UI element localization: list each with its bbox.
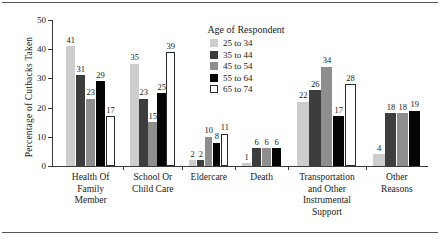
bar (221, 134, 229, 166)
x-axis-line (52, 166, 428, 167)
bar-value-label: 26 (311, 79, 320, 89)
bar (213, 143, 221, 166)
bar-value-label: 34 (323, 55, 332, 65)
x-axis-label: Transportationand OtherInstrumentalSuppo… (299, 172, 355, 218)
figure-bottom-rule (2, 232, 438, 233)
bar (321, 67, 332, 166)
bar-value-label: 6 (255, 137, 259, 147)
bar-value-label: 29 (96, 70, 105, 80)
y-tick-label: 50 (37, 15, 46, 25)
legend-item[interactable]: 55 to 64 (210, 73, 306, 83)
bar (373, 154, 384, 166)
y-tick-label: 40 (37, 44, 46, 54)
x-axis-label: School OrChild Care (132, 172, 173, 195)
x-axis-label: Death (250, 172, 273, 184)
chart-legend: Age of Respondent 25 to 3435 to 4445 to … (186, 24, 306, 96)
x-axis-label-line: Support (299, 207, 355, 219)
legend-item-label: 35 to 44 (223, 50, 253, 60)
bar (130, 64, 138, 166)
x-axis-label-line: School Or (132, 172, 173, 184)
bar-value-label: 23 (140, 87, 149, 97)
bar-value-label: 4 (377, 143, 381, 153)
legend-title: Age of Respondent (186, 24, 306, 35)
bar-value-label: 6 (275, 137, 279, 147)
bar (76, 75, 85, 166)
bar-value-label: 15 (149, 111, 158, 121)
x-axis-label-line: Eldercare (191, 172, 227, 184)
bar (66, 46, 75, 166)
bar-value-label: 23 (86, 87, 95, 97)
bar (139, 99, 147, 166)
bar (385, 113, 396, 166)
y-tick-mark (48, 166, 53, 167)
bar-value-label: 17 (106, 105, 115, 115)
bar-value-label: 2 (199, 149, 203, 159)
bar-value-label: 28 (346, 73, 355, 83)
group-separator-tick (182, 166, 183, 170)
group-separator-tick (366, 166, 367, 170)
bar (197, 160, 205, 166)
x-axis-label: Health OfFamilyMember (72, 172, 110, 207)
bar (106, 116, 115, 166)
x-axis-label-line: Member (72, 195, 110, 207)
bar-value-label: 8 (215, 131, 219, 141)
bar (297, 102, 308, 166)
bar (333, 116, 344, 166)
legend-item[interactable]: 65 to 74 (210, 84, 306, 94)
legend-item-label: 45 to 54 (223, 61, 253, 71)
bar-value-label: 10 (205, 125, 214, 135)
legend-item[interactable]: 35 to 44 (210, 50, 306, 60)
x-axis-label: OtherReasons (381, 172, 413, 195)
bar-value-label: 2 (191, 149, 195, 159)
bar-group: 4131232917 (58, 20, 123, 166)
x-axis-label-line: Instrumental (299, 195, 355, 207)
bar (252, 148, 262, 166)
y-tick-label: 10 (37, 132, 46, 142)
y-tick-mark (48, 108, 53, 109)
legend-swatch-icon (210, 62, 218, 70)
bar-value-label: 19 (410, 99, 419, 109)
y-axis-title: Percentage of Cutbacks Taken (24, 12, 34, 182)
x-axis-label: Eldercare (191, 172, 227, 184)
x-axis-label-line: Transportation (299, 172, 355, 184)
bar (409, 111, 420, 166)
bar-group: 3523152539 (123, 20, 182, 166)
legend-swatch-icon (210, 85, 218, 93)
bar (148, 122, 156, 166)
y-tick-label: 0 (42, 161, 47, 171)
x-axis-label-line: Family (72, 184, 110, 196)
legend-item[interactable]: 25 to 34 (210, 38, 306, 48)
bar (345, 84, 356, 166)
legend-item-label: 65 to 74 (223, 84, 253, 94)
legend-swatch-icon (210, 74, 218, 82)
y-tick-mark (48, 49, 53, 50)
bar-value-label: 6 (265, 137, 269, 147)
bar-group: 4181819 (366, 20, 428, 166)
x-axis-label-line: Other (381, 172, 413, 184)
bar (157, 93, 165, 166)
bar (189, 160, 197, 166)
bar-value-label: 31 (76, 64, 85, 74)
legend-swatch-icon (210, 51, 218, 59)
group-separator-tick (235, 166, 236, 170)
bar-value-label: 39 (167, 41, 176, 51)
figure-top-rule (2, 2, 438, 3)
y-tick-mark (48, 78, 53, 79)
legend-items: 25 to 3435 to 4445 to 5455 to 6465 to 74 (186, 38, 306, 94)
bar-value-label: 18 (399, 102, 408, 112)
bar (242, 163, 252, 166)
bar-value-label: 25 (158, 82, 167, 92)
bar (309, 90, 320, 166)
bar (397, 113, 408, 166)
group-separator-tick (123, 166, 124, 170)
legend-item[interactable]: 45 to 54 (210, 61, 306, 71)
legend-swatch-icon (210, 39, 218, 47)
x-axis-label-line: Reasons (381, 184, 413, 196)
x-axis-label-line: Health Of (72, 172, 110, 184)
y-tick-mark (48, 20, 53, 21)
legend-item-label: 55 to 64 (223, 73, 253, 83)
bar (166, 52, 174, 166)
bar-value-label: 18 (387, 102, 396, 112)
legend-item-label: 25 to 34 (223, 38, 253, 48)
bar-value-label: 11 (221, 122, 229, 132)
